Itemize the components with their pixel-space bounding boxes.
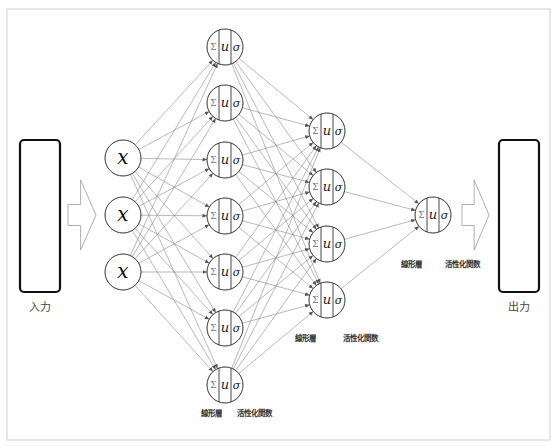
linear-layer-label: 線形層	[201, 408, 222, 418]
sigma-symbol: σ	[233, 41, 241, 54]
input-box	[20, 140, 60, 292]
u-symbol: u	[221, 320, 229, 335]
sum-symbol: Σ	[210, 42, 216, 52]
neuron-node: Σuσ	[207, 310, 243, 346]
input-variable: x	[117, 259, 128, 283]
sum-symbol: Σ	[210, 155, 216, 165]
sigma-symbol: σ	[335, 238, 343, 251]
u-symbol: u	[221, 152, 229, 167]
u-symbol: u	[221, 208, 229, 223]
output-box	[499, 140, 539, 292]
sum-symbol: Σ	[210, 380, 216, 390]
output-label: 出力	[508, 300, 530, 314]
input-node: x	[105, 140, 141, 176]
neuron-node: Σuσ	[207, 29, 243, 65]
u-symbol: u	[221, 264, 229, 279]
sum-symbol: Σ	[312, 182, 318, 192]
neuron-node: Σuσ	[309, 169, 345, 205]
input-variable: x	[117, 202, 128, 226]
u-symbol: u	[429, 207, 437, 222]
sum-symbol: Σ	[312, 239, 318, 249]
sum-symbol: Σ	[210, 323, 216, 333]
sigma-symbol: σ	[233, 210, 241, 223]
activation-function-label: 活性化関数	[237, 408, 273, 418]
sigma-symbol: σ	[233, 322, 241, 335]
sigma-symbol: σ	[335, 294, 343, 307]
neuron-node: Σuσ	[415, 197, 451, 233]
input-node: x	[105, 254, 141, 290]
sigma-symbol: σ	[335, 181, 343, 194]
neuron-node: Σuσ	[309, 282, 345, 318]
sum-symbol: Σ	[210, 98, 216, 108]
neuron-node: Σuσ	[207, 142, 243, 178]
sigma-symbol: σ	[335, 125, 343, 138]
neuron-node: Σuσ	[207, 254, 243, 290]
sigma-symbol: σ	[233, 154, 241, 167]
neural-network-diagram: 入力出力 xxxΣuσΣuσΣuσΣuσΣuσΣuσΣuσΣuσΣuσΣuσΣu…	[0, 0, 558, 446]
input-variable: x	[117, 145, 128, 169]
sum-symbol: Σ	[210, 267, 216, 277]
sigma-symbol: σ	[233, 266, 241, 279]
sigma-symbol: σ	[233, 379, 241, 392]
u-symbol: u	[221, 39, 229, 54]
linear-layer-label: 線形層	[401, 259, 422, 269]
neuron-node: Σuσ	[207, 198, 243, 234]
neuron-node: Σuσ	[207, 367, 243, 403]
input-label: 入力	[29, 301, 51, 314]
neuron-node: Σuσ	[309, 226, 345, 262]
u-symbol: u	[323, 292, 331, 307]
u-symbol: u	[323, 123, 331, 138]
sum-symbol: Σ	[418, 210, 424, 220]
linear-layer-label: 線形層	[295, 333, 316, 343]
u-symbol: u	[323, 236, 331, 251]
activation-function-label: 活性化関数	[445, 259, 481, 269]
neuron-node: Σuσ	[309, 113, 345, 149]
neuron-node: Σuσ	[207, 85, 243, 121]
sum-symbol: Σ	[210, 211, 216, 221]
u-symbol: u	[221, 377, 229, 392]
sum-symbol: Σ	[312, 295, 318, 305]
input-node: x	[105, 197, 141, 233]
sum-symbol: Σ	[312, 126, 318, 136]
sigma-symbol: σ	[441, 209, 449, 222]
activation-function-label: 活性化関数	[343, 333, 379, 343]
u-symbol: u	[323, 179, 331, 194]
u-symbol: u	[221, 95, 229, 110]
sigma-symbol: σ	[233, 97, 241, 110]
